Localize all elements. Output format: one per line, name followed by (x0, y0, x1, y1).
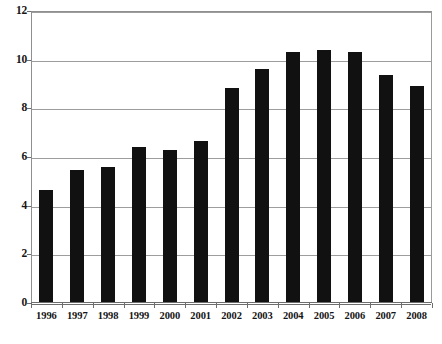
y-tick-label: 0 (3, 297, 27, 309)
bar (132, 147, 146, 303)
bar (225, 88, 239, 303)
x-tick-label: 2008 (406, 311, 427, 322)
y-tick-mark (27, 11, 31, 12)
bar (410, 86, 424, 303)
bars-layer (31, 11, 432, 303)
x-tick-mark (154, 303, 155, 308)
x-tick-mark (432, 303, 433, 308)
y-tick-mark (27, 60, 31, 61)
bar (70, 170, 84, 303)
x-tick-label: 1999 (129, 311, 150, 322)
y-tick-label: 4 (3, 200, 27, 212)
y-tick-mark (27, 206, 31, 207)
x-tick-label: 2001 (190, 311, 211, 322)
x-tick-label: 1996 (36, 311, 57, 322)
bar (348, 52, 362, 303)
x-tick-label: 2002 (221, 311, 242, 322)
x-tick-mark (278, 303, 279, 308)
y-tick-label: 8 (3, 103, 27, 115)
y-tick-label: 10 (3, 54, 27, 66)
x-tick-label: 1998 (98, 311, 119, 322)
x-tick-mark (124, 303, 125, 308)
bar (286, 52, 300, 303)
x-tick-mark (31, 303, 32, 308)
bar (255, 69, 269, 303)
bar (379, 75, 393, 303)
x-tick-mark (247, 303, 248, 308)
x-tick-mark (93, 303, 94, 308)
y-tick-label: 6 (3, 151, 27, 163)
x-tick-mark (339, 303, 340, 308)
y-axis-labels: 024681012 (0, 0, 27, 344)
bar (101, 167, 115, 303)
bar (163, 150, 177, 303)
y-tick-mark (27, 108, 31, 109)
x-tick-mark (185, 303, 186, 308)
x-tick-label: 2000 (159, 311, 180, 322)
x-tick-label: 2003 (252, 311, 273, 322)
bar-chart: 024681012 199619971998199920002001200220… (0, 0, 442, 344)
x-tick-label: 1997 (67, 311, 88, 322)
x-tick-label: 2004 (283, 311, 304, 322)
x-tick-mark (62, 303, 63, 308)
x-tick-mark (309, 303, 310, 308)
y-tick-mark (27, 254, 31, 255)
x-tick-mark (401, 303, 402, 308)
bar (194, 141, 208, 303)
x-tick-mark (370, 303, 371, 308)
x-tick-mark (216, 303, 217, 308)
y-tick-mark (27, 157, 31, 158)
x-tick-label: 2006 (345, 311, 366, 322)
y-tick-label: 2 (3, 249, 27, 261)
x-tick-label: 2005 (314, 311, 335, 322)
bar (39, 190, 53, 303)
y-tick-label: 12 (3, 5, 27, 17)
bar (317, 50, 331, 303)
x-tick-label: 2007 (375, 311, 396, 322)
x-axis-line (31, 302, 432, 303)
